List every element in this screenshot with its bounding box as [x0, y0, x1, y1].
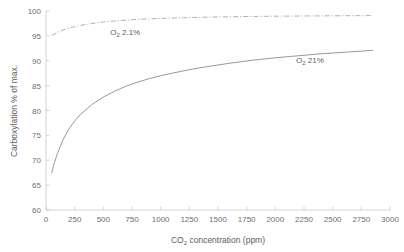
- y-tick-label: 65: [32, 181, 41, 190]
- y-tick-label: 75: [32, 131, 41, 140]
- series-line-o2-21-percent: [52, 50, 373, 172]
- x-axis-title-base: CO: [171, 235, 184, 245]
- x-tick-label: 250: [68, 215, 82, 224]
- x-tick-label: 2250: [295, 215, 313, 224]
- y-tick-label: 90: [32, 57, 41, 66]
- series-line-o2-2-1-percent: [52, 16, 373, 36]
- x-tick-label: 500: [97, 215, 111, 224]
- x-axis-title-rest: concentration (ppm): [187, 235, 265, 245]
- y-tick-label: 85: [32, 82, 41, 91]
- x-tick-label: 0: [44, 215, 49, 224]
- annotation-o2-2-1-rest: 2.1%: [120, 28, 140, 37]
- x-tick-label: 2750: [352, 215, 370, 224]
- x-tick-label: 1000: [152, 215, 170, 224]
- x-tick-label: 1750: [238, 215, 256, 224]
- x-tick-label: 750: [125, 215, 139, 224]
- annotation-o2-2-1-percent: O2 2.1%: [110, 28, 140, 38]
- chart-canvas: 6065707580859095100 02505007501000125015…: [0, 0, 404, 252]
- plot-axes: [46, 11, 390, 210]
- annotation-o2-21-rest: 21%: [306, 56, 324, 65]
- x-tick-group: [46, 207, 390, 211]
- x-tick-label: 2000: [266, 215, 284, 224]
- y-tick-label: 95: [32, 32, 41, 41]
- x-tick-label: 3000: [381, 215, 399, 224]
- y-tick-label: 80: [32, 107, 41, 116]
- y-tick-label: 100: [28, 7, 42, 16]
- x-tick-label: 2500: [324, 215, 342, 224]
- x-axis-title: CO2 concentration (ppm): [171, 235, 265, 246]
- y-tick-label: 70: [32, 156, 41, 165]
- x-tick-label-group: 0250500750100012501500175020002250250027…: [44, 215, 400, 224]
- annotation-o2-21-percent: O2 21%: [296, 56, 324, 66]
- y-tick-label: 60: [32, 206, 41, 215]
- chart-figure: 6065707580859095100 02505007501000125015…: [0, 0, 404, 252]
- y-tick-group: [46, 11, 50, 210]
- y-tick-label-group: 6065707580859095100: [28, 7, 42, 215]
- y-axis-title: Carboxylation % of max.: [9, 65, 19, 157]
- x-tick-label: 1250: [180, 215, 198, 224]
- x-tick-label: 1500: [209, 215, 227, 224]
